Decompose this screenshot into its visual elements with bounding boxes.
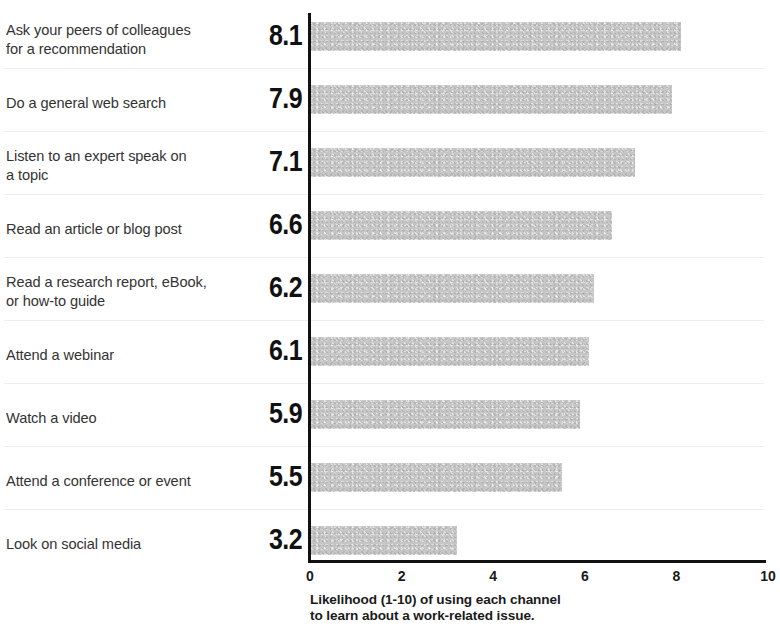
x-tick-label: 4 [473, 568, 513, 584]
x-tick-label: 2 [382, 568, 422, 584]
value-label: 5.5 [206, 462, 302, 491]
chart-row: Watch a video5.9 [0, 387, 773, 450]
x-tick-label: 10 [748, 568, 780, 584]
value-label: 6.2 [206, 273, 302, 302]
value-label: 7.1 [206, 147, 302, 176]
bar [310, 274, 594, 303]
bar [310, 211, 612, 240]
chart-row: Read a research report, eBook, or how-to… [0, 261, 773, 324]
chart-row: Ask your peers of colleagues for a recom… [0, 9, 773, 72]
value-label: 3.2 [206, 525, 302, 554]
row-separator [4, 320, 764, 321]
value-label: 6.1 [206, 336, 302, 365]
bar [310, 400, 580, 429]
x-axis-caption: Likelihood (1-10) of using each channel … [310, 592, 561, 624]
row-separator [4, 194, 764, 195]
chart-row: Attend a conference or event5.5 [0, 450, 773, 513]
value-label: 5.9 [206, 399, 302, 428]
chart-row: Read an article or blog post6.6 [0, 198, 773, 261]
x-tick-label: 0 [290, 568, 330, 584]
bar [310, 85, 672, 114]
bar [310, 22, 681, 51]
value-label: 7.9 [206, 84, 302, 113]
chart-row: Look on social media3.2 [0, 513, 773, 576]
bar [310, 526, 457, 555]
value-label: 8.1 [206, 21, 302, 50]
chart-row: Do a general web search7.9 [0, 72, 773, 135]
row-separator [4, 383, 764, 384]
row-separator [4, 257, 764, 258]
bar [310, 463, 562, 492]
row-separator [4, 446, 764, 447]
y-axis-line [308, 13, 311, 563]
x-tick-label: 8 [656, 568, 696, 584]
row-separator [4, 68, 764, 69]
bar [310, 148, 635, 177]
value-label: 6.6 [206, 210, 302, 239]
row-separator [4, 131, 764, 132]
row-separator [4, 509, 764, 510]
chart-row: Listen to an expert speak on a topic7.1 [0, 135, 773, 198]
x-tick-label: 6 [565, 568, 605, 584]
x-axis-line [308, 560, 766, 563]
chart-row: Attend a webinar6.1 [0, 324, 773, 387]
bar [310, 337, 589, 366]
